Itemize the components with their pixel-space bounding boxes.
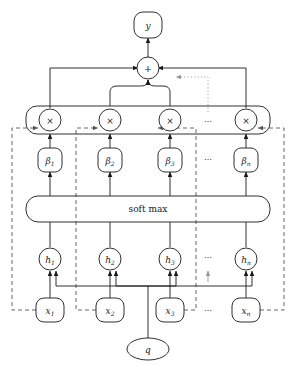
ellipsis-hidden-row: ⋯ <box>204 253 212 262</box>
product-label-n: × <box>242 116 250 126</box>
edge-prod2-to-sum <box>110 80 148 106</box>
edge-prod3-to-sum <box>148 80 170 106</box>
edge-prod1-to-sum <box>50 68 138 108</box>
ellipsis-beta-row: ⋯ <box>204 155 212 164</box>
diagram-canvas: y + × × × × ⋯ β1 β2 β3 βn ⋯ soft max h1 <box>0 0 297 365</box>
product-label-1: × <box>46 116 54 126</box>
query-label: q <box>145 345 151 355</box>
sum-label: + <box>144 63 152 74</box>
output-label: y <box>144 21 151 31</box>
ellipsis-input-row: ⋯ <box>204 306 212 315</box>
attention-diagram: y + × × × × ⋯ β1 β2 β3 βn ⋯ soft max h1 <box>0 0 297 365</box>
edge-prodn-to-sum <box>158 68 246 108</box>
edge-q-to-h2 <box>116 271 148 286</box>
omitted-connection <box>176 77 208 112</box>
skip-path-2 <box>76 128 98 310</box>
product-label-3: × <box>166 116 174 126</box>
product-container <box>26 106 270 134</box>
edge-q-to-h3 <box>148 271 176 286</box>
softmax-label: soft max <box>129 204 168 214</box>
skip-path-1 <box>12 128 38 310</box>
skip-path-n <box>258 128 284 310</box>
product-label-2: × <box>106 116 114 126</box>
edge-q-to-hn <box>148 271 252 286</box>
ellipsis-product-row: ⋯ <box>204 117 212 126</box>
